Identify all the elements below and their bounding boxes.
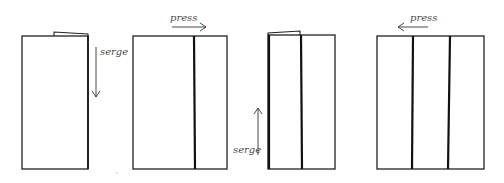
arrow-left-icon [398, 23, 428, 31]
serge-label: serge [100, 46, 128, 57]
stray-mark [116, 172, 117, 173]
step-3: serge [233, 31, 335, 169]
step-1: serge [22, 32, 128, 169]
fabric-panel [22, 36, 88, 169]
press-label: press [170, 12, 197, 23]
sewing-diagram: serge press serge press [0, 0, 504, 183]
press-label: press [410, 12, 437, 23]
fabric-panel [377, 36, 484, 169]
fabric-panel [133, 36, 227, 169]
step-2: press [133, 12, 227, 169]
serge-label: serge [233, 144, 261, 155]
arrow-down-icon [92, 47, 100, 97]
seam-line [194, 36, 195, 169]
arrow-right-icon [172, 23, 206, 31]
seam-line [412, 36, 413, 169]
seam-line [301, 35, 302, 169]
step-4: press [377, 12, 484, 169]
